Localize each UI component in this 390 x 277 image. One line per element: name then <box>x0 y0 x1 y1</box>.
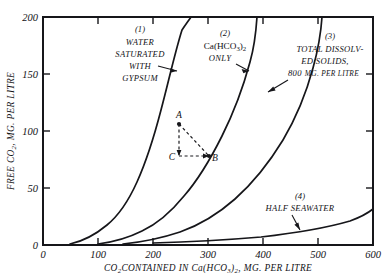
annotation-2-formula-ca: Ca(HCO <box>204 41 237 51</box>
point-label-a: A <box>175 109 182 120</box>
y-tick-labels: 0 50 100 150 200 <box>22 12 39 251</box>
annotation-4-line-1: HALF SEAWATER <box>265 203 335 213</box>
annotation-3-value: 800 <box>288 68 302 78</box>
point-label-c: C <box>169 151 176 162</box>
chart-svg: 0 100 200 300 400 500 600 0 50 100 150 2… <box>0 0 390 277</box>
y-label-150: 150 <box>22 69 39 80</box>
svg-text:FREE CO2, MG. PER LITRE: FREE CO2, MG. PER LITRE <box>6 72 17 191</box>
annotation-4-number: (4) <box>295 191 305 201</box>
x-label-200: 200 <box>145 249 162 260</box>
annotation-1-line-1: WATER <box>126 37 155 47</box>
annotation-3-line-3: 800MG. PER LITRE <box>288 68 359 78</box>
y-label-200: 200 <box>22 12 39 23</box>
annotation-3-line-2: ED SOLIDS, <box>300 56 348 66</box>
x-axis-title: CO2CONTAINED IN Ca(HCO3)2, MG. PER LITRE <box>104 263 312 274</box>
x-title-mid: CONTAINED IN Ca(HCO <box>121 263 227 274</box>
x-label-400: 400 <box>255 249 272 260</box>
connector-a-b <box>179 124 209 156</box>
y-axis-title: FREE CO2, MG. PER LITRE <box>6 72 17 191</box>
x-label-100: 100 <box>90 249 107 260</box>
y-title-tail: , MG. PER LITRE <box>6 72 16 146</box>
x-label-500: 500 <box>310 249 327 260</box>
annotation-1-line-3: WITH <box>129 61 152 71</box>
point-label-b: B <box>212 152 218 163</box>
chart-figure: 0 100 200 300 400 500 600 0 50 100 150 2… <box>0 0 390 277</box>
data-point-a <box>177 122 181 126</box>
curve-4-half-seawater <box>153 209 373 243</box>
annotation-4-half-seawater: (4) HALF SEAWATER <box>265 191 335 230</box>
point-triangle-abc: A B C <box>169 109 218 163</box>
x-label-600: 600 <box>365 249 382 260</box>
y-label-100: 100 <box>22 126 39 137</box>
x-title-tail: , MG. PER LITRE <box>238 263 312 273</box>
annotation-2-number: (2) <box>220 28 230 38</box>
annotation-3-number: (3) <box>325 31 335 41</box>
annotation-3-arrowhead <box>268 87 276 93</box>
svg-text:CO2CONTAINED IN Ca(HCO3)2, MG.: CO2CONTAINED IN Ca(HCO3)2, MG. PER LITRE <box>104 263 312 274</box>
annotation-1-gypsum: (1) WATER SATURATED WITH GYPSUM <box>115 24 177 83</box>
annotation-2-formula: Ca(HCO3)2 <box>204 41 247 52</box>
annotation-3-units: MG. PER LITRE <box>304 69 359 78</box>
arrowhead-a-c <box>177 150 182 156</box>
annotation-2-formula-sub2: 2 <box>243 45 247 52</box>
x-tick-labels: 0 100 200 300 400 500 600 <box>40 249 381 260</box>
y-title-free-co: FREE CO <box>6 149 16 191</box>
x-label-300: 300 <box>199 249 217 260</box>
x-title-co: CO <box>104 263 118 273</box>
y-label-0: 0 <box>33 240 39 251</box>
x-label-0: 0 <box>40 249 46 260</box>
annotation-1-number: (1) <box>135 24 145 34</box>
annotation-1-line-4: GYPSUM <box>122 73 158 83</box>
y-label-50: 50 <box>28 183 39 194</box>
annotation-3-tds: (3) TOTAL DISSOLV- ED SOLIDS, 800MG. PER… <box>268 31 364 92</box>
annotation-2-bicarbonate: (2) Ca(HCO3)2 ONLY <box>204 28 249 73</box>
annotation-2-line-2: ONLY <box>209 53 232 63</box>
annotation-1-line-2: SATURATED <box>115 49 165 59</box>
annotation-4-arrowhead <box>294 223 300 231</box>
annotation-3-line-1: TOTAL DISSOLV- <box>296 44 363 54</box>
